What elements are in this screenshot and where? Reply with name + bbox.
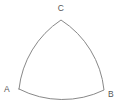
vertex-label-b: B <box>108 89 114 99</box>
reuleaux-triangle-outline <box>19 20 104 100</box>
reuleaux-triangle-figure: A B C <box>0 0 115 112</box>
vertex-label-c: C <box>58 3 65 13</box>
figure-canvas: A B C <box>0 0 115 112</box>
vertex-label-a: A <box>4 84 10 94</box>
